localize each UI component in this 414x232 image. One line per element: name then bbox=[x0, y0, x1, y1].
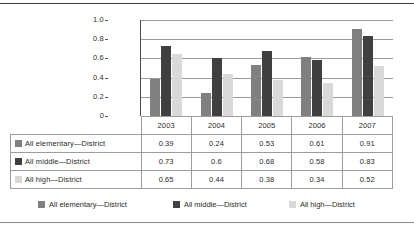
table-cell-value: 0.61 bbox=[292, 135, 342, 153]
bar bbox=[301, 57, 311, 116]
legend-item: All elementary—District bbox=[38, 200, 127, 209]
table-cell-value: 0.52 bbox=[342, 171, 392, 189]
legend-label: All high—District bbox=[300, 200, 355, 209]
series-name: All middle—District bbox=[25, 157, 90, 166]
bar-group bbox=[141, 20, 191, 116]
plot-area: 1.00.80.60.40.20 bbox=[108, 20, 393, 116]
table-column-header: 2007 bbox=[342, 117, 392, 135]
bar bbox=[150, 79, 160, 116]
table-cell-value: 0.34 bbox=[292, 171, 342, 189]
table-cell-value: 0.24 bbox=[191, 135, 241, 153]
bar-group bbox=[292, 20, 342, 116]
table-column-header: 2004 bbox=[191, 117, 241, 135]
y-axis-tick-label: 0.4 bbox=[74, 74, 104, 82]
bar bbox=[352, 29, 362, 116]
bar bbox=[273, 80, 283, 116]
series-color-swatch-icon bbox=[15, 140, 22, 147]
table-cell-value: 0.73 bbox=[141, 153, 191, 171]
y-axis-tick-label: 1.0 bbox=[74, 16, 104, 24]
bar bbox=[262, 51, 272, 116]
y-axis-tick-mark bbox=[105, 39, 108, 40]
bar bbox=[223, 74, 233, 116]
bar bbox=[201, 93, 211, 116]
table-cell-value: 0.44 bbox=[191, 171, 241, 189]
table-header-row: 20032004200520062007 bbox=[11, 117, 393, 135]
legend-color-swatch-icon bbox=[38, 201, 45, 208]
series-color-swatch-icon bbox=[15, 176, 22, 183]
table-cell-value: 0.91 bbox=[342, 135, 392, 153]
table-row-header: All middle—District bbox=[11, 153, 142, 171]
bar bbox=[312, 60, 322, 116]
table-corner-cell bbox=[11, 117, 142, 135]
bar bbox=[212, 58, 222, 116]
top-divider bbox=[0, 3, 414, 4]
y-axis-tick-label: 0.2 bbox=[74, 93, 104, 101]
bar bbox=[374, 66, 384, 116]
table-cell-value: 0.68 bbox=[242, 153, 292, 171]
table-row: All high—District0.650.440.380.340.52 bbox=[11, 171, 393, 189]
y-axis-tick-mark bbox=[105, 20, 108, 21]
table-column-header: 2006 bbox=[292, 117, 342, 135]
bar-series-container bbox=[141, 20, 393, 116]
table-cell-value: 0.39 bbox=[141, 135, 191, 153]
bar bbox=[172, 54, 182, 116]
bar bbox=[161, 46, 171, 116]
table-row-header: All elementary—District bbox=[11, 135, 142, 153]
bar bbox=[323, 83, 333, 116]
y-axis: 1.00.80.60.40.20 bbox=[74, 20, 104, 116]
legend-item: All high—District bbox=[289, 200, 355, 209]
table-cell-value: 0.53 bbox=[242, 135, 292, 153]
bar-group bbox=[242, 20, 292, 116]
table-column-header: 2003 bbox=[141, 117, 191, 135]
table-row-header: All high—District bbox=[11, 171, 142, 189]
table-cell-value: 0.6 bbox=[191, 153, 241, 171]
data-table-body: 20032004200520062007All elementary—Distr… bbox=[11, 117, 393, 189]
table-column-header: 2005 bbox=[242, 117, 292, 135]
legend-item: All middle—District bbox=[173, 200, 247, 209]
table-cell-value: 0.65 bbox=[141, 171, 191, 189]
y-axis-tick-label: 0.8 bbox=[74, 35, 104, 43]
y-axis-tick-mark bbox=[105, 58, 108, 59]
bar bbox=[251, 65, 261, 116]
legend: All elementary—DistrictAll middle—Distri… bbox=[10, 200, 393, 209]
table-row: All elementary—District0.390.240.530.610… bbox=[11, 135, 393, 153]
series-color-swatch-icon bbox=[15, 158, 22, 165]
series-name: All elementary—District bbox=[25, 139, 105, 148]
legend-label: All middle—District bbox=[184, 200, 247, 209]
table-row: All middle—District0.730.60.680.580.83 bbox=[11, 153, 393, 171]
legend-color-swatch-icon bbox=[173, 201, 180, 208]
bar-group bbox=[343, 20, 393, 116]
bar-group bbox=[191, 20, 241, 116]
legend-label: All elementary—District bbox=[49, 200, 127, 209]
data-table: 20032004200520062007All elementary—Distr… bbox=[10, 116, 393, 189]
plot-canvas bbox=[140, 20, 393, 116]
table-cell-value: 0.83 bbox=[342, 153, 392, 171]
y-axis-tick-label: 0.6 bbox=[74, 54, 104, 62]
table-cell-value: 0.58 bbox=[292, 153, 342, 171]
legend-color-swatch-icon bbox=[289, 201, 296, 208]
bar bbox=[363, 36, 373, 116]
y-axis-tick-mark bbox=[105, 97, 108, 98]
bottom-divider bbox=[0, 222, 414, 223]
table-cell-value: 0.38 bbox=[242, 171, 292, 189]
series-name: All high—District bbox=[25, 175, 82, 184]
chart-figure: 1.00.80.60.40.20 20032004200520062007All… bbox=[0, 0, 414, 232]
y-axis-tick-mark bbox=[105, 78, 108, 79]
